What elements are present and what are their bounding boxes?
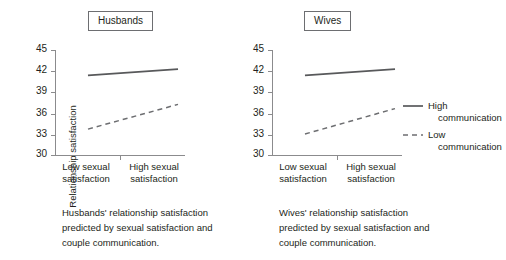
caption-line: predicted by sexual satisfaction and (62, 220, 237, 235)
legend-label-low: Low communication (428, 129, 506, 153)
panel-husbands: Husbands Relationship satisfaction 45 42… (0, 0, 232, 260)
line-low-communication (305, 109, 395, 134)
line-high-communication (88, 69, 178, 75)
caption-line: Husbands' relationship satisfaction (62, 205, 237, 220)
legend: High communication Low communication (403, 100, 506, 158)
x-category-label-high: High sexual satisfaction (117, 161, 191, 185)
plot-area-wives: 45 42 39 36 33 30 Low sexu (272, 50, 402, 156)
legend-entry-low-communication: Low communication (403, 129, 506, 153)
x-category-label-low: Low sexual satisfaction (266, 161, 340, 185)
y-tick-label: 33 (253, 128, 264, 140)
plot-area-husbands: Relationship satisfaction 45 42 39 36 33… (55, 50, 185, 156)
series-lines-husbands (55, 50, 185, 156)
x-category-label-high: High sexual satisfaction (334, 161, 408, 185)
panel-wives: Wives 45 42 39 36 33 30 (232, 0, 477, 260)
y-tick-label: 42 (253, 64, 264, 76)
y-tick-label: 30 (253, 148, 264, 160)
legend-entry-high-communication: High communication (403, 100, 506, 124)
caption-line: predicted by sexual satisfaction and (279, 220, 459, 235)
y-tick-label: 42 (36, 64, 47, 76)
y-tick-label: 33 (36, 128, 47, 140)
panel-title-wives: Wives (304, 11, 351, 31)
y-tick-label: 39 (253, 85, 264, 97)
y-tick-label: 39 (36, 85, 47, 97)
caption-wives: Wives' relationship satisfaction predict… (279, 205, 459, 250)
line-low-communication (88, 104, 178, 129)
caption-line: couple communication. (62, 235, 237, 250)
legend-label-high: High communication (428, 100, 506, 124)
x-tick (337, 156, 338, 160)
y-tick-label: 36 (36, 107, 47, 119)
x-category-label-low: Low sexual satisfaction (49, 161, 123, 185)
solid-line-icon (403, 100, 423, 112)
x-tick (120, 156, 121, 160)
y-tick-label: 36 (253, 107, 264, 119)
panel-title-husbands: Husbands (88, 11, 153, 31)
y-tick-label: 45 (36, 43, 47, 55)
line-high-communication (305, 69, 395, 75)
dashed-line-icon (403, 129, 423, 141)
caption-line: Wives' relationship satisfaction (279, 205, 459, 220)
caption-line: couple communication. (279, 235, 459, 250)
y-tick-label: 30 (36, 148, 47, 160)
caption-husbands: Husbands' relationship satisfaction pred… (62, 205, 237, 250)
y-tick-label: 45 (253, 43, 264, 55)
series-lines-wives (272, 50, 402, 156)
